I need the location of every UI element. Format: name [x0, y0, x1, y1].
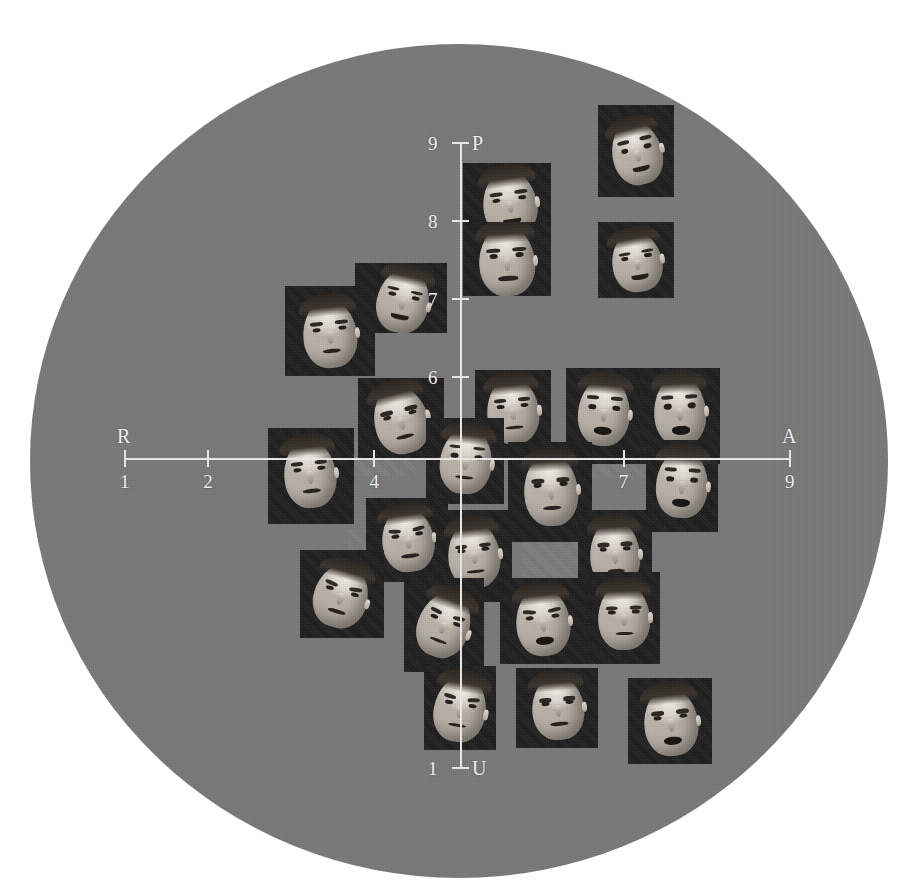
ear-shape	[627, 410, 632, 421]
face-portrait	[576, 376, 633, 447]
nose-shape	[678, 481, 685, 494]
hair-shape	[297, 290, 357, 319]
photo-card-dubious	[268, 428, 354, 524]
photo-card-amused	[598, 222, 674, 298]
x-tick-label-1: 1	[120, 472, 130, 491]
photo-card-grim	[588, 572, 660, 664]
nose-shape	[612, 551, 619, 564]
y-tick-label-6: 6	[428, 368, 438, 387]
ear-shape	[658, 143, 665, 154]
mouth-shape	[550, 721, 568, 726]
ear-shape	[695, 715, 701, 726]
face-portrait	[605, 116, 669, 190]
hair-shape	[638, 678, 698, 707]
eye-l	[388, 291, 396, 297]
face-portrait	[371, 264, 435, 333]
nose-shape	[503, 258, 511, 271]
hair-shape	[442, 513, 500, 541]
eye-l	[588, 403, 596, 409]
eye-r	[318, 465, 326, 470]
ear-shape	[704, 405, 709, 416]
eye-l	[620, 148, 629, 155]
scatter-plot-figure: 1247998761RAPU	[0, 0, 912, 893]
mouth-shape	[663, 736, 682, 746]
nose-shape	[307, 471, 314, 484]
nose-shape	[506, 201, 514, 214]
mouth-shape	[499, 276, 518, 282]
nose-shape	[438, 621, 448, 634]
hair-shape	[375, 498, 434, 527]
y-tick-8	[452, 220, 469, 222]
eyebrow-l	[523, 610, 536, 614]
eyebrow-r	[473, 446, 486, 451]
eye-r	[559, 481, 567, 486]
ear-shape	[497, 548, 503, 559]
nose-shape	[600, 409, 607, 422]
hair-shape	[650, 368, 707, 394]
x-tick-4	[373, 450, 375, 467]
ear-shape	[659, 254, 665, 264]
nose-shape	[405, 537, 413, 549]
nose-shape	[633, 150, 642, 163]
mouth-shape	[672, 498, 690, 507]
ear-shape	[706, 481, 711, 492]
ear-shape	[363, 599, 370, 610]
eyebrow-l	[487, 248, 501, 253]
photo-card-pensive	[285, 286, 375, 376]
face-portrait	[513, 585, 574, 658]
nose-shape	[634, 259, 642, 271]
nose-shape	[539, 619, 547, 632]
eye-l	[666, 476, 674, 482]
hair-shape	[527, 668, 585, 694]
eye-r	[679, 713, 688, 718]
eye-l	[621, 257, 629, 262]
y-tick-label-1: 1	[428, 759, 438, 778]
photo-card-pained	[404, 578, 484, 672]
eye-l	[391, 534, 399, 539]
eyebrow-l	[587, 395, 600, 400]
eyebrow-r	[467, 698, 480, 702]
x-tick-2	[207, 450, 209, 467]
y-tick-label-7: 7	[428, 290, 438, 309]
eyebrow-r	[611, 397, 624, 402]
y-tick-7	[452, 298, 469, 300]
hair-shape	[476, 163, 537, 191]
eyebrow-r	[514, 189, 527, 194]
ear-shape	[581, 702, 587, 713]
nose-shape	[510, 408, 517, 420]
eye-r	[412, 296, 420, 302]
eye-l	[654, 715, 663, 720]
eyebrow-l	[388, 530, 400, 534]
hair-shape	[655, 442, 712, 468]
nose-shape	[621, 614, 628, 626]
eye-r	[518, 194, 527, 199]
ear-shape	[536, 405, 542, 416]
vertical-axis-line	[460, 143, 462, 768]
hair-shape	[577, 369, 635, 396]
eyebrow-l	[661, 395, 674, 399]
eye-r	[551, 613, 560, 618]
eye-r	[623, 546, 631, 551]
face-portrait	[641, 685, 702, 758]
ear-shape	[567, 615, 573, 626]
hair-shape	[602, 109, 660, 143]
photo-card-startled	[646, 440, 718, 532]
mouth-shape	[327, 607, 346, 616]
ear-shape	[575, 484, 581, 496]
eyebrow-l	[618, 252, 630, 257]
x-tick-9	[789, 450, 791, 467]
eye-r	[566, 700, 574, 705]
eyebrow-r	[639, 134, 651, 140]
eyebrow-l	[310, 322, 323, 327]
y-tick-1	[452, 767, 469, 769]
ear-shape	[648, 612, 653, 623]
eye-r	[515, 252, 524, 257]
eye-r	[338, 325, 347, 330]
y-tick-9	[452, 142, 469, 144]
mouth-shape	[632, 165, 650, 174]
photo-card-laughing	[598, 105, 674, 197]
nose-shape	[548, 487, 555, 500]
ear-shape	[489, 460, 495, 471]
eye-l	[430, 613, 439, 620]
nose-shape	[335, 593, 344, 606]
